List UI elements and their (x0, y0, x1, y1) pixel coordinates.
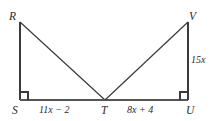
vertex-label-S: S (12, 105, 18, 117)
measure-label-ST: 11x − 2 (39, 105, 69, 115)
geometry-figure: R S T U V 11x − 2 8x + 4 15x (0, 0, 214, 121)
measure-label-TU: 8x + 4 (127, 105, 153, 115)
measure-label-UV: 15x (191, 55, 205, 65)
right-angle-at-S-marker (20, 92, 28, 100)
geometry-svg (0, 0, 214, 121)
right-angle-at-U-marker (180, 92, 188, 100)
vertex-label-T: T (101, 105, 107, 117)
vertex-label-U: U (186, 105, 194, 117)
segment-RT-line (20, 22, 105, 100)
segment-TV-line (105, 22, 188, 100)
vertex-label-V: V (189, 11, 196, 23)
vertex-label-R: R (9, 11, 16, 23)
